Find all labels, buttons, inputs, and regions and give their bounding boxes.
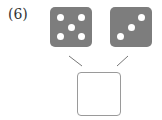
left-connector-line [69, 56, 82, 66]
right-connector-line [117, 56, 128, 66]
answer-box[interactable] [77, 72, 121, 116]
